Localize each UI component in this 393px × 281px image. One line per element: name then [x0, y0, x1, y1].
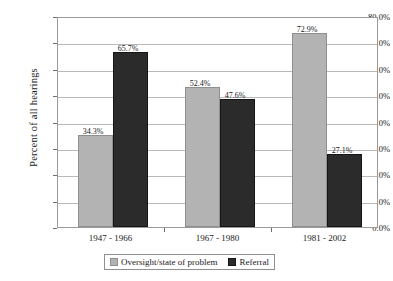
bar-value-label: 27.1% [332, 146, 353, 155]
x-tick-label: 1947 - 1966 [89, 233, 133, 243]
bar-value-label: 34.3% [83, 127, 104, 136]
bar-value-label: 72.9% [297, 25, 318, 34]
legend-label-referral: Referral [239, 257, 268, 267]
legend-swatch-icon-referral [228, 258, 236, 266]
x-tick-mark [271, 228, 272, 232]
legend-swatch-icon-oversight [110, 258, 118, 266]
bar-referral [327, 154, 362, 227]
bar-oversight [78, 135, 113, 227]
chart-legend: Oversight/state of problem Referral [104, 254, 275, 270]
bars-layer [58, 18, 377, 227]
bar-value-label: 52.4% [190, 79, 211, 88]
bar-value-label: 47.6% [225, 91, 246, 100]
bar-oversight [185, 87, 220, 227]
bar-oversight [292, 33, 327, 227]
bar-chart: Percent of all hearings 0.0%10.0%20.0%30… [0, 0, 393, 281]
legend-item-referral[interactable]: Referral [228, 257, 268, 267]
legend-label-oversight: Oversight/state of problem [121, 257, 217, 267]
legend-item-oversight[interactable]: Oversight/state of problem [110, 257, 217, 267]
x-tick-label: 1981 - 2002 [303, 233, 347, 243]
x-tick-label: 1967 - 1980 [196, 233, 240, 243]
bar-referral [220, 99, 255, 227]
x-tick-mark [164, 228, 165, 232]
plot-area [57, 17, 378, 228]
bar-referral [113, 52, 148, 227]
bar-value-label: 65.7% [118, 44, 139, 53]
y-tick-mark [53, 228, 57, 229]
y-axis-title: Percent of all hearings [28, 23, 39, 213]
